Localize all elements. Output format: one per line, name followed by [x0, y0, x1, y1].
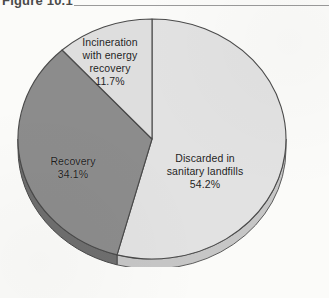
- figure-page: Figure 10.1: [0, 0, 329, 298]
- slice-label-incineration-line2: with energy: [83, 49, 138, 61]
- slice-value-landfills: 54.2%: [152, 178, 258, 191]
- pie-chart: Incineration with energy recovery 11.7% …: [0, 0, 291, 298]
- slice-label-incineration-line1: Incineration: [82, 36, 137, 48]
- slice-label-incineration-line3: recovery: [89, 62, 130, 74]
- slice-value-recovery: 34.1%: [28, 168, 118, 181]
- slice-label-landfills-line1: Discarded in: [175, 152, 235, 164]
- slice-label-incineration: Incineration with energy recovery 11.7%: [66, 36, 154, 88]
- slice-label-recovery: Recovery 34.1%: [28, 155, 118, 181]
- slice-value-incineration: 11.7%: [66, 75, 154, 88]
- slice-label-landfills-line2: sanitary landfills: [167, 165, 244, 177]
- slice-label-landfills: Discarded in sanitary landfills 54.2%: [152, 152, 258, 191]
- slice-label-recovery-line1: Recovery: [50, 155, 95, 167]
